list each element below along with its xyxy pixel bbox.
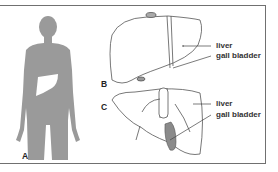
- label-liver-c: liver: [216, 100, 232, 108]
- panel-label-c: C: [101, 103, 107, 112]
- gall-bladder: [165, 122, 176, 150]
- figure-illustration: [0, 0, 278, 172]
- label-gall-bladder-b: gall bladder: [216, 52, 261, 60]
- panel-label-b: B: [101, 80, 107, 89]
- label-gall-bladder-c: gall bladder: [216, 111, 261, 119]
- liver-inferior-view: [112, 88, 203, 155]
- panel-label-a: A: [22, 152, 28, 161]
- label-liver-b: liver: [216, 42, 232, 50]
- liver-anterior-view: [110, 13, 202, 84]
